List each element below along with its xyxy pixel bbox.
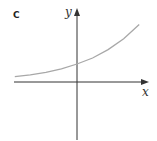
panel-label: C [13,10,20,20]
chart: C y x [0,0,157,141]
y-axis-label: y [64,5,72,19]
y-axis-arrow-icon [74,8,80,16]
x-axis-label: x [142,85,149,99]
